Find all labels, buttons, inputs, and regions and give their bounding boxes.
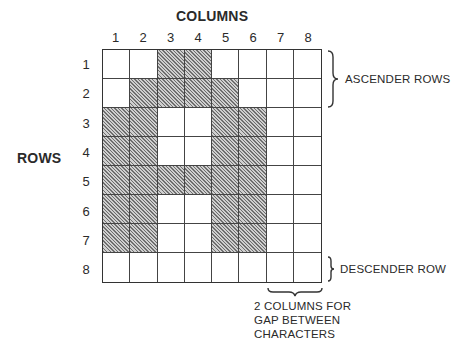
column-label: 6: [240, 30, 267, 45]
filled-cell: [130, 195, 157, 224]
empty-cell: [267, 108, 294, 137]
row-label: 2: [78, 86, 94, 101]
empty-cell: [267, 253, 294, 282]
empty-cell: [239, 253, 266, 282]
gap-label-line-1: 2 COLUMNS FOR: [254, 299, 351, 313]
empty-cell: [267, 195, 294, 224]
filled-cell: [130, 137, 157, 166]
empty-cell: [158, 195, 185, 224]
empty-cell: [267, 224, 294, 253]
empty-cell: [294, 137, 321, 166]
descender-row-label: DESCENDER ROW: [340, 262, 446, 276]
row-label: 5: [78, 174, 94, 189]
gap-label-line-3: CHARACTERS: [254, 327, 351, 341]
row-label: 6: [78, 204, 94, 219]
empty-cell: [294, 224, 321, 253]
filled-cell: [212, 108, 239, 137]
empty-cell: [294, 108, 321, 137]
descender-brace-icon: [326, 255, 336, 283]
filled-cell: [185, 166, 212, 195]
empty-cell: [185, 137, 212, 166]
row-label: 4: [78, 145, 94, 160]
empty-cell: [158, 108, 185, 137]
character-matrix-grid: [102, 49, 322, 283]
filled-cell: [158, 166, 185, 195]
filled-cell: [130, 79, 157, 108]
row-label: 8: [78, 262, 94, 277]
row-label: 3: [78, 116, 94, 131]
filled-cell: [212, 195, 239, 224]
row-label: 1: [78, 57, 94, 72]
filled-cell: [212, 137, 239, 166]
filled-cell: [130, 166, 157, 195]
filled-cell: [130, 224, 157, 253]
empty-cell: [130, 253, 157, 282]
filled-cell: [103, 108, 130, 137]
filled-cell: [103, 166, 130, 195]
filled-cell: [158, 50, 185, 79]
filled-cell: [239, 108, 266, 137]
filled-cell: [239, 137, 266, 166]
empty-cell: [158, 224, 185, 253]
empty-cell: [185, 195, 212, 224]
empty-cell: [103, 253, 130, 282]
column-label: 2: [130, 30, 157, 45]
empty-cell: [185, 224, 212, 253]
empty-cell: [267, 79, 294, 108]
empty-cell: [239, 79, 266, 108]
column-label: 5: [212, 30, 239, 45]
filled-cell: [103, 224, 130, 253]
column-label: 4: [185, 30, 212, 45]
empty-cell: [212, 253, 239, 282]
filled-cell: [185, 79, 212, 108]
filled-cell: [239, 166, 266, 195]
rows-title: ROWS: [17, 150, 61, 166]
column-label: 3: [157, 30, 184, 45]
ascender-brace-icon: [326, 49, 340, 109]
filled-cell: [103, 137, 130, 166]
empty-cell: [103, 50, 130, 79]
column-label: 1: [102, 30, 129, 45]
filled-cell: [185, 50, 212, 79]
empty-cell: [185, 108, 212, 137]
columns-title: COLUMNS: [176, 8, 248, 24]
empty-cell: [103, 79, 130, 108]
filled-cell: [239, 195, 266, 224]
empty-cell: [158, 137, 185, 166]
gap-columns-label: 2 COLUMNS FOR GAP BETWEEN CHARACTERS: [254, 299, 351, 341]
row-label: 7: [78, 233, 94, 248]
column-label: 7: [267, 30, 294, 45]
empty-cell: [239, 50, 266, 79]
empty-cell: [267, 166, 294, 195]
filled-cell: [239, 224, 266, 253]
empty-cell: [158, 253, 185, 282]
empty-cell: [294, 166, 321, 195]
column-label: 8: [295, 30, 322, 45]
empty-cell: [294, 253, 321, 282]
filled-cell: [212, 224, 239, 253]
filled-cell: [103, 195, 130, 224]
empty-cell: [267, 137, 294, 166]
ascender-rows-label: ASCENDER ROWS: [345, 72, 450, 86]
empty-cell: [294, 50, 321, 79]
filled-cell: [212, 166, 239, 195]
empty-cell: [130, 50, 157, 79]
empty-cell: [294, 195, 321, 224]
filled-cell: [158, 79, 185, 108]
gap-brace-icon: [267, 286, 323, 298]
filled-cell: [130, 108, 157, 137]
empty-cell: [212, 50, 239, 79]
empty-cell: [294, 79, 321, 108]
gap-label-line-2: GAP BETWEEN: [254, 313, 351, 327]
empty-cell: [267, 50, 294, 79]
filled-cell: [212, 79, 239, 108]
empty-cell: [185, 253, 212, 282]
